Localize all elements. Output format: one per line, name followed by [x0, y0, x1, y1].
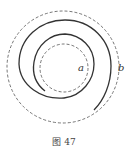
- spiral-diagram: [0, 0, 128, 149]
- outer-dashed-circle: [7, 11, 119, 123]
- figure-caption: 图 47: [0, 135, 128, 148]
- solid-spiral: [19, 20, 111, 110]
- label-a: a: [78, 62, 84, 73]
- label-b: b: [118, 62, 124, 73]
